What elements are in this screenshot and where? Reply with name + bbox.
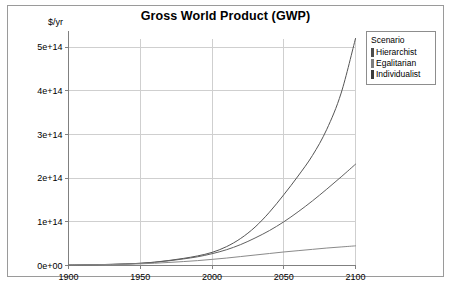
tick-labels: 0e+001e+142e+143e+144e+145e+141900195020…: [37, 42, 365, 281]
legend-swatch-icon: [371, 48, 374, 57]
svg-text:1950: 1950: [130, 272, 150, 282]
legend-item-label: Individualist: [376, 69, 420, 80]
svg-text:2e+14: 2e+14: [37, 173, 62, 183]
legend-item-label: Egalitarian: [376, 58, 416, 69]
legend-item-hierarchist: Hierarchist: [371, 47, 431, 58]
svg-text:0e+00: 0e+00: [37, 261, 62, 271]
legend-item-individualist: Individualist: [371, 69, 431, 80]
legend-swatch-icon: [371, 59, 374, 68]
svg-text:1900: 1900: [58, 272, 78, 282]
legend-item-label: Hierarchist: [376, 47, 417, 58]
legend-item-egalitarian: Egalitarian: [371, 58, 431, 69]
gridlines: [69, 39, 356, 266]
chart-figure: Gross World Product (GWP) $/yr 0e+001e+1…: [0, 0, 451, 291]
svg-text:2000: 2000: [202, 272, 222, 282]
legend-title: Scenario: [371, 35, 431, 46]
svg-text:3e+14: 3e+14: [37, 130, 62, 140]
legend: Scenario Hierarchist Egalitarian Individ…: [366, 31, 436, 85]
legend-swatch-icon: [371, 70, 374, 79]
svg-text:2050: 2050: [274, 272, 294, 282]
svg-text:1e+14: 1e+14: [37, 217, 62, 227]
svg-text:2100: 2100: [345, 272, 365, 282]
svg-text:4e+14: 4e+14: [37, 86, 62, 96]
tick-marks: [65, 47, 356, 269]
svg-text:5e+14: 5e+14: [37, 42, 62, 52]
